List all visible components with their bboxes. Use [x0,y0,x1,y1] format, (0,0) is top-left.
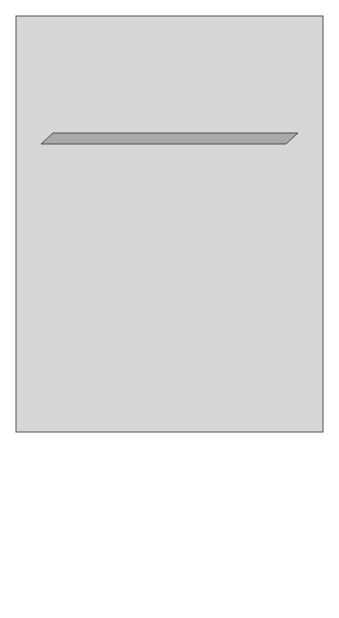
ovaries-box [41,133,298,145]
hormone-feedback-diagram [0,0,339,618]
diagram-panel [16,16,323,432]
